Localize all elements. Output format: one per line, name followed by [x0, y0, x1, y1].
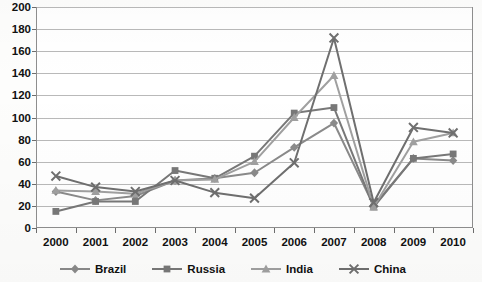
legend-label: China	[374, 263, 406, 275]
y-tick-label: 40	[1, 179, 31, 189]
x-tick-label: 2008	[352, 236, 396, 248]
gridline	[37, 206, 472, 207]
gridline	[37, 162, 472, 163]
legend-item-brazil[interactable]: Brazil	[60, 262, 126, 276]
x-tick-label: 2006	[272, 236, 316, 248]
y-tick-label: 120	[1, 90, 31, 100]
gridline	[37, 118, 472, 119]
y-tick-label: 200	[1, 2, 31, 12]
y-tick-label: 100	[1, 113, 31, 123]
x-tick-label: 2000	[34, 236, 78, 248]
x-tick-mark	[274, 228, 275, 233]
chart-container: 020406080100120140160180200 200020012002…	[0, 0, 482, 282]
legend-label: Russia	[187, 263, 225, 275]
x-tick-mark	[235, 228, 236, 233]
y-tick-label: 180	[1, 24, 31, 34]
legend: BrazilRussiaIndiaChina	[60, 259, 460, 279]
gridline	[37, 95, 472, 96]
legend-marker-triangle-icon	[251, 262, 281, 276]
x-tick-mark	[433, 228, 434, 233]
plot-area	[36, 7, 473, 228]
x-tick-label: 2003	[153, 236, 197, 248]
y-tick-label: 20	[1, 201, 31, 211]
legend-item-russia[interactable]: Russia	[152, 262, 225, 276]
gridline	[37, 140, 472, 141]
gridline	[37, 73, 472, 74]
y-tick-label: 60	[1, 157, 31, 167]
x-tick-label: 2005	[233, 236, 277, 248]
y-tick-label: 140	[1, 68, 31, 78]
legend-item-india[interactable]: India	[251, 262, 313, 276]
x-tick-mark	[354, 228, 355, 233]
x-tick-label: 2002	[113, 236, 157, 248]
x-tick-mark	[155, 228, 156, 233]
legend-item-china[interactable]: China	[339, 262, 406, 276]
x-tick-label: 2010	[431, 236, 475, 248]
y-tick-label: 80	[1, 135, 31, 145]
gridline	[37, 29, 472, 30]
legend-label: India	[286, 263, 313, 275]
x-tick-label: 2007	[312, 236, 356, 248]
gridline	[37, 51, 472, 52]
x-tick-mark	[76, 228, 77, 233]
x-tick-mark	[314, 228, 315, 233]
legend-label: Brazil	[95, 263, 126, 275]
gridline	[37, 7, 472, 8]
y-tick-label: 0	[1, 223, 31, 233]
legend-marker-cross-icon	[339, 262, 369, 276]
legend-marker-square-icon	[152, 262, 182, 276]
x-tick-mark	[473, 228, 474, 233]
x-tick-label: 2009	[391, 236, 435, 248]
x-tick-mark	[115, 228, 116, 233]
y-tick-label: 160	[1, 46, 31, 56]
gridline	[37, 184, 472, 185]
x-tick-mark	[36, 228, 37, 233]
x-tick-label: 2001	[74, 236, 118, 248]
x-tick-label: 2004	[193, 236, 237, 248]
legend-marker-diamond-icon	[60, 262, 90, 276]
x-tick-mark	[195, 228, 196, 233]
x-tick-mark	[394, 228, 395, 233]
